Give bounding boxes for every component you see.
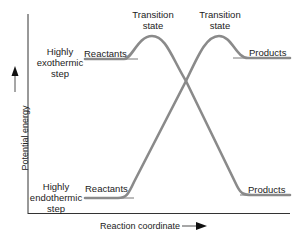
endo-transition-state-label: Transition state	[192, 9, 248, 31]
exo-label-line2: exothermic	[36, 57, 84, 68]
exo-label-line1: Highly	[36, 46, 84, 57]
exo-ts-line1: Transition	[125, 9, 181, 20]
energy-diagram: Highly exothermic step Reactants Transit…	[0, 0, 301, 239]
endo-products-label: Products	[249, 47, 287, 58]
endo-label-line1: Highly	[28, 181, 84, 192]
exo-products-label: Products	[248, 184, 286, 195]
endo-reactants-label: Reactants	[85, 183, 128, 194]
y-arrow-icon	[12, 66, 19, 76]
endothermic-step-label: Highly endothermic step	[28, 181, 84, 214]
exo-reactants-label: Reactants	[84, 48, 127, 59]
x-axis-label: Reaction coordinate	[100, 221, 180, 231]
y-axis-label: Potential energy	[20, 83, 30, 193]
endo-ts-line1: Transition	[192, 9, 248, 20]
endo-label-line2: endothermic	[28, 192, 84, 203]
exo-transition-state-label: Transition state	[125, 9, 181, 31]
exo-ts-line2: state	[125, 20, 181, 31]
exo-label-line3: step	[36, 68, 84, 79]
x-arrow-icon	[196, 222, 207, 230]
exothermic-step-label: Highly exothermic step	[36, 46, 84, 79]
endo-ts-line2: state	[192, 20, 248, 31]
exothermic-curve	[85, 36, 290, 195]
endo-label-line3: step	[28, 203, 84, 214]
